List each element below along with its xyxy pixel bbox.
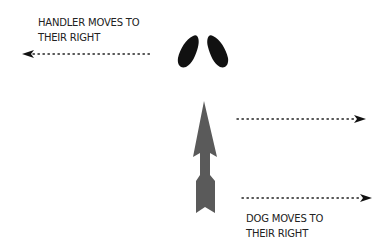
dog-movement-arrow-icon	[242, 194, 372, 202]
dog-facing-arrow-icon	[193, 101, 217, 213]
upper-right-movement-arrow-icon	[237, 115, 366, 123]
handler-footprints-icon	[178, 35, 228, 67]
diagram-canvas	[0, 0, 390, 250]
handler-movement-arrow-icon	[22, 50, 150, 58]
